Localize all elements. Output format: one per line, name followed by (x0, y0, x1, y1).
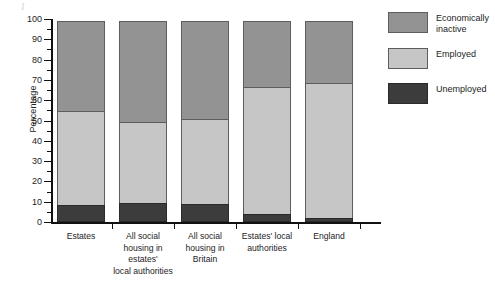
y-tick-major (44, 100, 51, 101)
bar-5 (305, 21, 353, 222)
x-tick (360, 222, 361, 229)
y-tick-minor (47, 29, 51, 30)
bar-segment-employed (305, 83, 353, 219)
legend-swatch-unemployed (388, 83, 428, 104)
x-category-label: England (277, 231, 381, 243)
y-tick-label: 40 (14, 137, 42, 146)
y-tick-minor (47, 110, 51, 111)
y-tick-major (44, 19, 51, 20)
bar-segment-unemployed (305, 218, 353, 222)
x-tick (298, 222, 299, 229)
y-tick-minor (47, 212, 51, 213)
y-tick-minor (47, 151, 51, 152)
stacked-bar-chart: ʃ Percentage 0102030405060708090100 Esta… (0, 0, 495, 288)
x-category-label-line: local authorities (91, 266, 195, 278)
y-tick-major (44, 39, 51, 40)
bar-3 (181, 21, 229, 222)
y-tick-label: 30 (14, 157, 42, 166)
bar-4 (243, 21, 291, 222)
y-tick-minor (47, 131, 51, 132)
y-tick-major (44, 222, 51, 223)
plot-area (51, 19, 381, 224)
y-tick-label: 10 (14, 198, 42, 207)
y-tick-major (44, 181, 51, 182)
bar-segment-employed (119, 122, 167, 204)
x-category-label-line: England (277, 231, 381, 243)
bar-1 (57, 21, 105, 222)
bar-segment-unemployed (243, 214, 291, 222)
x-axis-line (51, 222, 381, 224)
y-tick-label: 100 (14, 15, 42, 24)
legend-swatch-economically-inactive (388, 12, 428, 33)
y-tick-minor (47, 90, 51, 91)
y-tick-major (44, 141, 51, 142)
chart-legend: Economically inactiveEmployedUnemployed (388, 12, 494, 118)
legend-item-unemployed: Unemployed (388, 83, 494, 104)
legend-label: Employed (436, 48, 476, 60)
bar-segment-inactive (243, 21, 291, 88)
bar-segment-employed (181, 119, 229, 204)
y-tick-minor (47, 49, 51, 50)
y-tick-major (44, 161, 51, 162)
legend-label: Unemployed (436, 83, 487, 95)
y-tick-minor (47, 171, 51, 172)
y-axis-line (51, 19, 53, 224)
bar-segment-inactive (57, 21, 105, 112)
legend-item-employed: Employed (388, 48, 494, 69)
bar-segment-inactive (181, 21, 229, 120)
bar-segment-inactive (119, 21, 167, 123)
bar-segment-inactive (305, 21, 353, 84)
bar-segment-unemployed (181, 204, 229, 222)
y-tick-minor (47, 192, 51, 193)
x-tick (174, 222, 175, 229)
y-tick-major (44, 60, 51, 61)
legend-item-economically-inactive: Economically inactive (388, 12, 494, 34)
bar-segment-unemployed (57, 205, 105, 222)
bar-2 (119, 21, 167, 222)
y-tick-label: 70 (14, 76, 42, 85)
bar-segment-employed (57, 111, 105, 205)
bar-segment-unemployed (119, 203, 167, 222)
y-tick-minor (47, 70, 51, 71)
y-tick-major (44, 121, 51, 122)
x-tick (112, 222, 113, 229)
y-tick-label: 60 (14, 96, 42, 105)
y-tick-label: 90 (14, 35, 42, 44)
y-tick-major (44, 202, 51, 203)
bar-segment-employed (243, 87, 291, 215)
x-category-label-line: authorities (215, 243, 319, 255)
x-tick (236, 222, 237, 229)
y-axis-tick-labels: 0102030405060708090100 (12, 19, 42, 224)
x-category-label-line: Britain (153, 254, 257, 266)
scan-artifact: ʃ (22, 1, 24, 10)
y-tick-label: 80 (14, 56, 42, 65)
legend-swatch-employed (388, 48, 428, 69)
y-tick-label: 0 (14, 218, 42, 227)
y-tick-label: 20 (14, 177, 42, 186)
y-tick-label: 50 (14, 117, 42, 126)
y-tick-major (44, 80, 51, 81)
legend-label: Economically inactive (436, 12, 494, 34)
